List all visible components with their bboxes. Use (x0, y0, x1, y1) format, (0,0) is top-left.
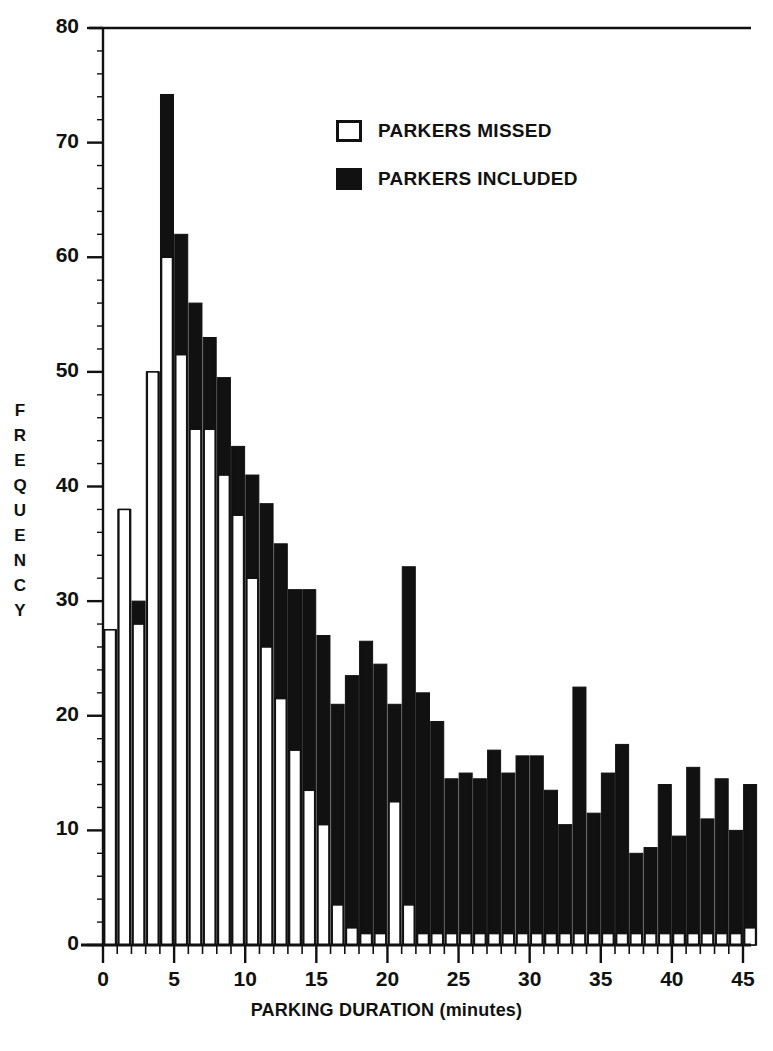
bar-missed (275, 699, 286, 945)
bar-included (573, 687, 586, 945)
bar-included (601, 773, 614, 945)
bar-included (530, 756, 543, 945)
y-tick-label: 70 (35, 129, 79, 153)
bar-missed (631, 934, 642, 945)
bar-missed (204, 429, 215, 945)
x-tick-label: 30 (510, 967, 550, 991)
bar-included (644, 848, 657, 945)
bar-missed (247, 578, 258, 945)
x-tick-label: 20 (367, 967, 407, 991)
bar-missed (588, 934, 599, 945)
bar-included (360, 641, 373, 945)
bar-missed (133, 624, 144, 945)
y-axis-title-letter: Q (6, 473, 34, 498)
legend-item: PARKERS INCLUDED (336, 168, 578, 190)
y-axis-title-letter: E (6, 523, 34, 548)
bar-included (374, 664, 387, 945)
bars-group (104, 94, 757, 945)
bar-included (715, 779, 728, 945)
x-tick-label: 0 (83, 967, 123, 991)
bar-included (616, 744, 629, 945)
bar-missed (503, 934, 514, 945)
legend-item: PARKERS MISSED (336, 120, 578, 142)
bar-missed (161, 257, 172, 945)
x-axis-title: PARKING DURATION (minutes) (0, 1000, 773, 1021)
bar-missed (745, 928, 756, 945)
bar-included (431, 721, 444, 945)
bar-missed (147, 372, 158, 945)
y-axis-title-letter: C (6, 573, 34, 598)
y-tick-label: 40 (35, 473, 79, 497)
bar-missed (417, 934, 428, 945)
bar-included (658, 785, 671, 945)
bar-missed (602, 934, 613, 945)
x-tick-label: 5 (154, 967, 194, 991)
bar-included (345, 676, 358, 945)
bar-missed (318, 825, 329, 945)
y-tick-label: 50 (35, 358, 79, 382)
y-tick-label: 60 (35, 243, 79, 267)
bar-missed (474, 934, 485, 945)
y-tick-label: 20 (35, 702, 79, 726)
bar-missed (261, 647, 272, 945)
bar-missed (233, 515, 244, 945)
legend: PARKERS MISSEDPARKERS INCLUDED (336, 120, 578, 216)
bar-missed (545, 934, 556, 945)
y-axis-title-letter: R (6, 423, 34, 448)
bar-missed (617, 934, 628, 945)
bar-missed (119, 509, 130, 945)
y-axis-title-letter: N (6, 548, 34, 573)
bar-missed (489, 934, 500, 945)
x-tick-label: 25 (439, 967, 479, 991)
bar-missed (645, 934, 656, 945)
bar-included (502, 773, 515, 945)
bar-missed (403, 905, 414, 945)
bar-missed (702, 934, 713, 945)
bar-missed (531, 934, 542, 945)
bar-included (729, 830, 742, 945)
bar-missed (659, 934, 670, 945)
bar-missed (673, 934, 684, 945)
bar-included (459, 773, 472, 945)
histogram-figure: FREQUENCY PARKERS MISSEDPARKERS INCLUDED… (0, 0, 773, 1051)
x-tick-label: 40 (652, 967, 692, 991)
x-tick-label: 10 (225, 967, 265, 991)
legend-swatch-hollow-icon (336, 120, 362, 142)
y-tick-label: 0 (35, 931, 79, 955)
bar-missed (304, 790, 315, 945)
y-axis-title-letter: F (6, 398, 34, 423)
bar-included (445, 779, 458, 945)
bar-included (672, 836, 685, 945)
bar-included (516, 756, 529, 945)
bar-missed (730, 934, 741, 945)
bar-missed (389, 802, 400, 945)
y-axis-title-letter: U (6, 498, 34, 523)
bar-included (701, 819, 714, 945)
y-axis-title-letter: Y (6, 598, 34, 623)
bar-missed (517, 934, 528, 945)
legend-swatch-filled-icon (336, 168, 362, 190)
bar-missed (375, 934, 386, 945)
bar-missed (560, 934, 571, 945)
bar-missed (332, 905, 343, 945)
y-tick-label: 80 (35, 14, 79, 38)
bar-included (402, 567, 415, 945)
bar-missed (688, 934, 699, 945)
bar-missed (361, 934, 372, 945)
bar-missed (190, 429, 201, 945)
bar-included (630, 853, 643, 945)
x-tick-label: 45 (723, 967, 763, 991)
bar-missed (574, 934, 585, 945)
y-axis-title-letter: E (6, 448, 34, 473)
bar-included (488, 750, 501, 945)
legend-label: PARKERS INCLUDED (378, 168, 578, 190)
bar-missed (218, 475, 229, 945)
bar-missed (716, 934, 727, 945)
legend-label: PARKERS MISSED (378, 120, 552, 142)
bar-missed (446, 934, 457, 945)
x-tick-label: 35 (581, 967, 621, 991)
bar-included (587, 813, 600, 945)
bar-included (559, 825, 572, 945)
y-tick-label: 30 (35, 587, 79, 611)
bar-missed (346, 928, 357, 945)
